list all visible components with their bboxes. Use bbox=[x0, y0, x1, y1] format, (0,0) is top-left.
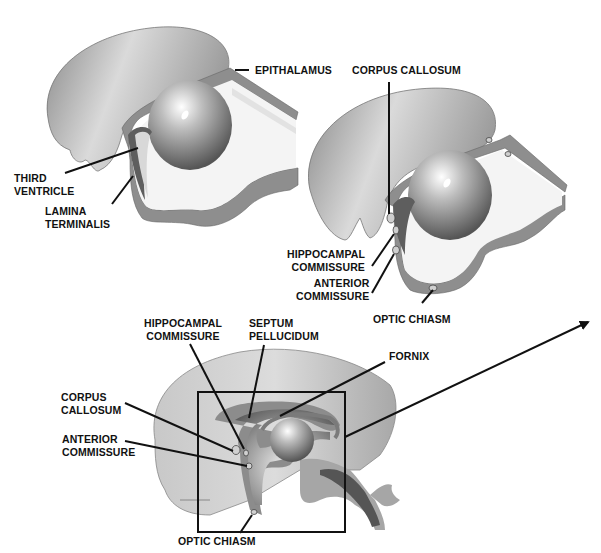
label-hippocampal-commissure-late-line1: HIPPOCAMPAL bbox=[144, 317, 222, 330]
panel-early-brain bbox=[47, 27, 298, 226]
label-third-ventricle-line1: THIRD bbox=[14, 172, 74, 185]
label-septum-pellucidum-line1: SEPTUM bbox=[249, 317, 319, 330]
label-fornix: FORNIX bbox=[389, 350, 429, 363]
label-septum-pellucidum-line2: PELLUCIDUM bbox=[249, 330, 319, 343]
panel-late-brain bbox=[154, 349, 400, 530]
label-corpus-callosum-late-line1: CORPUS bbox=[61, 391, 121, 404]
label-anterior-commissure-mid-line1: ANTERIOR bbox=[296, 277, 369, 290]
label-lamina-terminalis-line1: LAMINA bbox=[45, 205, 110, 218]
label-hippocampal-commissure-late: HIPPOCAMPAL COMMISSURE bbox=[144, 317, 222, 342]
label-corpus-callosum-mid-text: CORPUS CALLOSUM bbox=[352, 64, 461, 77]
label-epithalamus: EPITHALAMUS bbox=[255, 64, 332, 77]
label-anterior-commissure-mid-line2: COMMISSURE bbox=[296, 290, 369, 303]
label-lamina-terminalis-line2: TERMINALIS bbox=[45, 218, 110, 231]
label-anterior-commissure-mid: ANTERIOR COMMISSURE bbox=[296, 277, 369, 302]
label-anterior-commissure-late-line2: COMMISSURE bbox=[62, 446, 135, 459]
label-hippocampal-commissure-late-line2: COMMISSURE bbox=[144, 330, 222, 343]
label-hippocampal-commissure-mid-line2: COMMISSURE bbox=[287, 261, 365, 274]
label-anterior-commissure-late: ANTERIOR COMMISSURE bbox=[62, 433, 135, 458]
label-hippocampal-commissure-mid-line1: HIPPOCAMPAL bbox=[287, 248, 365, 261]
label-third-ventricle-line2: VENTRICLE bbox=[14, 185, 74, 198]
label-anterior-commissure-late-line1: ANTERIOR bbox=[62, 433, 135, 446]
label-hippocampal-commissure-mid: HIPPOCAMPAL COMMISSURE bbox=[287, 248, 365, 273]
label-corpus-callosum-late-line2: CALLOSUM bbox=[61, 404, 121, 417]
label-optic-chiasm-late-text: OPTIC CHIASM bbox=[178, 535, 256, 548]
label-fornix-text: FORNIX bbox=[389, 350, 429, 363]
label-lamina-terminalis: LAMINA TERMINALIS bbox=[45, 205, 110, 230]
label-optic-chiasm-late: OPTIC CHIASM bbox=[178, 535, 256, 548]
label-optic-chiasm-mid: OPTIC CHIASM bbox=[373, 313, 451, 326]
label-optic-chiasm-mid-text: OPTIC CHIASM bbox=[373, 313, 451, 326]
label-corpus-callosum-late: CORPUS CALLOSUM bbox=[61, 391, 121, 416]
label-epithalamus-text: EPITHALAMUS bbox=[255, 64, 332, 77]
label-third-ventricle: THIRD VENTRICLE bbox=[14, 172, 74, 197]
label-septum-pellucidum: SEPTUM PELLUCIDUM bbox=[249, 317, 319, 342]
label-corpus-callosum-mid: CORPUS CALLOSUM bbox=[352, 64, 461, 77]
